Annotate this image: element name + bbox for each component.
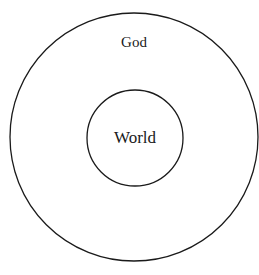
nested-circles-diagram: God World [0, 0, 259, 275]
inner-circle-label: World [114, 128, 157, 147]
outer-circle-label: God [121, 34, 147, 50]
